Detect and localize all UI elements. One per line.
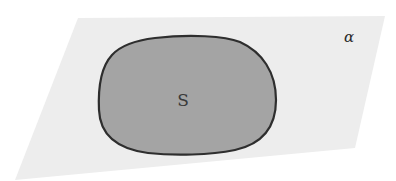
diagram-canvas: S α (0, 0, 396, 181)
diagram-svg: S α (0, 0, 396, 181)
plane-label: α (344, 28, 354, 46)
region-label: S (177, 90, 189, 110)
